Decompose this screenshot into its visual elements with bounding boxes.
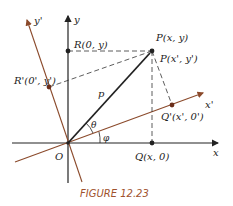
y-label: y [73, 14, 80, 25]
Q-prime-label: Q'(x', 0') [161, 111, 204, 122]
origin-label: O [55, 151, 63, 162]
P-label: P(x, y) [155, 32, 188, 43]
theta-label: θ [91, 120, 97, 130]
P-prime-label: P(x', y') [159, 53, 198, 64]
point-Q-prime [170, 103, 175, 108]
R-label: R(0, y) [73, 39, 108, 50]
vector-p [68, 53, 150, 143]
point-R [66, 49, 71, 54]
point-P [150, 49, 155, 54]
point-Q [150, 141, 155, 146]
phi-label: φ [103, 133, 110, 143]
Q-label: Q(x, 0) [135, 151, 169, 162]
x-prime-label: x' [205, 99, 213, 110]
R-prime-label: R'(0', y') [13, 75, 56, 86]
x-label: x [213, 147, 219, 158]
vector-p-label: p [98, 88, 105, 99]
y-prime-label: y' [33, 15, 42, 26]
x-prime-axis [15, 93, 203, 162]
rotated-axes-diagram: y' y x' x O R(0, y) P(x, y) P(x', y') R'… [0, 0, 233, 206]
phi-arc [99, 132, 100, 143]
figure-caption: FIGURE 12.23 [80, 188, 149, 199]
point-origin [66, 141, 70, 145]
